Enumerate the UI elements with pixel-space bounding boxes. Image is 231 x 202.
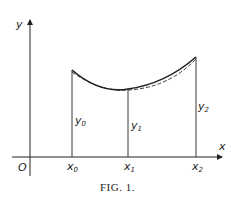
y0-label: y0 [74,114,87,128]
y-axis-label: y [15,18,23,31]
figure-diagram: y x O x0 x1 x2 y0 y1 y2 FIG. 1. [0,0,231,202]
figure-caption: FIG. 1. [100,181,135,193]
x2-label: x2 [191,160,204,174]
solid-curve [72,57,196,90]
origin-label: O [18,161,27,174]
x1-label: x1 [123,160,135,174]
x-axis-label: x [218,140,226,153]
x0-label: x0 [66,160,79,174]
dashed-approximation [72,59,196,90]
y1-label: y1 [130,119,142,133]
y2-label: y2 [197,100,210,114]
